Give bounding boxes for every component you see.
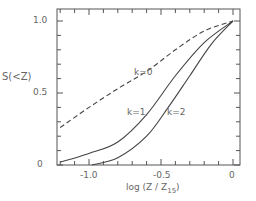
xtick-label-minus-1-0: -1.0 xyxy=(80,171,98,180)
curve-k-1 xyxy=(60,21,233,162)
ytick-label-1-0: 1.0 xyxy=(33,16,47,25)
xtick-label-0: 0 xyxy=(229,171,235,180)
x-axis-label-close: ) xyxy=(176,182,180,192)
xtick-label-minus-0-5: -0.5 xyxy=(153,171,171,180)
x-axis-label: log (Z / Z15) xyxy=(126,183,180,195)
y-axis-label: S(<Z) xyxy=(2,72,31,82)
ytick-label-0: 0 xyxy=(37,160,43,169)
curves xyxy=(60,21,233,165)
axis-ticks xyxy=(57,9,240,165)
plot-frame xyxy=(57,9,240,165)
x-axis-label-main: log (Z / Z xyxy=(126,182,167,192)
annotation-k1: k=1 xyxy=(127,108,145,117)
annotation-k0: k=0 xyxy=(134,68,152,77)
ytick-label-0-5: 0.5 xyxy=(33,88,47,97)
x-axis-label-subscript: 15 xyxy=(167,187,176,195)
annotation-k2: k=2 xyxy=(167,108,185,117)
chart-plot xyxy=(0,0,256,201)
